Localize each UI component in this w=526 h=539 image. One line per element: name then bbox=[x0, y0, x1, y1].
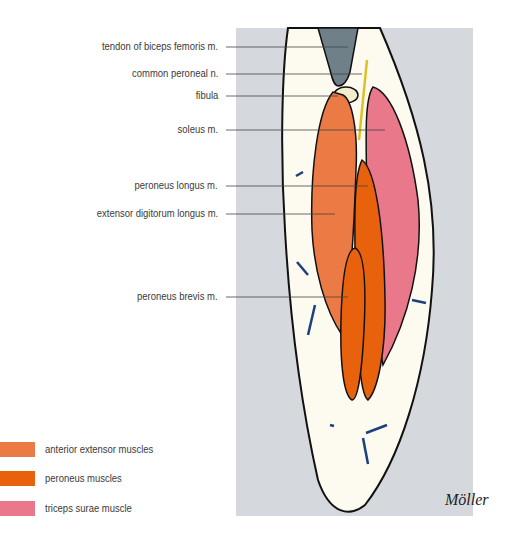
legend-swatch-peroneus bbox=[0, 471, 35, 486]
signature: Möller bbox=[444, 491, 489, 508]
label-biceps-tendon: tendon of biceps femoris m. bbox=[102, 40, 218, 52]
label-common-peroneal-nerve: common peroneal n. bbox=[132, 67, 218, 79]
legend-swatch-triceps bbox=[0, 501, 35, 516]
label-peroneus-longus: peroneus longus m. bbox=[135, 179, 218, 191]
legend-swatch-extensor bbox=[0, 442, 35, 457]
legend-label-peroneus: peroneus muscles bbox=[45, 472, 122, 484]
label-soleus: soleus m. bbox=[178, 123, 218, 135]
anatomy-illustration: Möller bbox=[0, 0, 526, 539]
label-extensor-digitorum: extensor digitorum longus m. bbox=[97, 207, 218, 219]
label-fibula: fibula bbox=[195, 89, 218, 101]
label-peroneus-brevis: peroneus brevis m. bbox=[138, 290, 218, 302]
legend-label-triceps: triceps surae muscle bbox=[45, 502, 132, 514]
legend-label-extensor: anterior extensor muscles bbox=[45, 443, 153, 455]
